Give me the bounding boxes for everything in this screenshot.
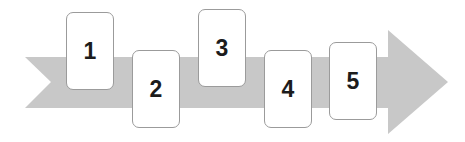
step-card-label: 2 <box>150 78 163 101</box>
step-card-label: 1 <box>84 40 97 63</box>
step-card-2[interactable]: 2 <box>132 50 180 128</box>
step-card-3[interactable]: 3 <box>198 9 246 87</box>
step-card-5[interactable]: 5 <box>329 42 377 120</box>
step-card-4[interactable]: 4 <box>264 50 312 128</box>
step-card-label: 5 <box>347 70 360 93</box>
diagram-canvas: 1 2 3 4 5 <box>0 0 465 142</box>
step-card-label: 4 <box>282 78 295 101</box>
step-card-label: 3 <box>216 37 229 60</box>
step-card-1[interactable]: 1 <box>66 12 114 90</box>
